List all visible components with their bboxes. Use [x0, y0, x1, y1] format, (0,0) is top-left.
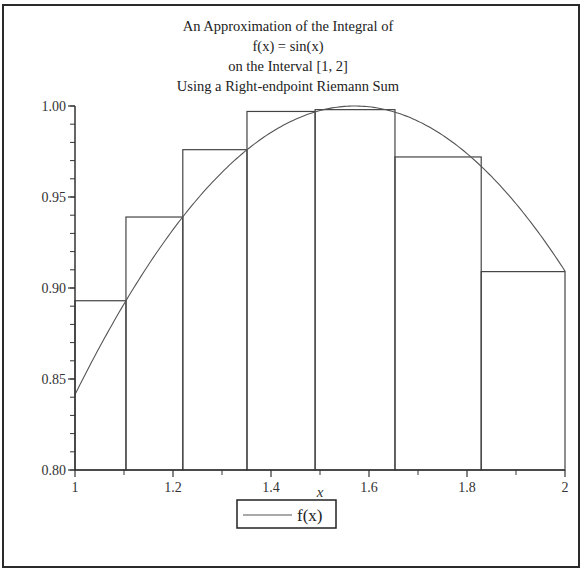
riemann-sum-chart: An Approximation of the Integral of f(x)… — [0, 0, 581, 574]
riemann-rectangle-5 — [315, 110, 395, 470]
y-tick-label: 1.00 — [42, 99, 67, 114]
riemann-rectangle-3 — [183, 150, 247, 470]
x-tick-label: 1.6 — [360, 480, 378, 495]
riemann-rectangle-2 — [126, 217, 183, 470]
legend: f(x) — [237, 500, 336, 528]
title-line-1: An Approximation of the Integral of — [183, 18, 394, 34]
riemann-rectangle-7 — [481, 272, 565, 470]
x-tick-label: 1.4 — [262, 480, 280, 495]
title-line-4: Using a Right-endpoint Riemann Sum — [177, 78, 400, 94]
riemann-rectangle-4 — [247, 111, 315, 470]
riemann-rectangles — [75, 110, 565, 470]
riemann-rectangle-6 — [395, 157, 481, 470]
title-line-2: f(x) = sin(x) — [253, 38, 324, 55]
y-axis-ticks: 0.800.850.900.951.00 — [42, 99, 76, 478]
y-tick-label: 0.95 — [42, 190, 67, 205]
y-tick-label: 0.90 — [42, 281, 67, 296]
y-tick-label: 0.80 — [42, 463, 67, 478]
y-tick-label: 0.85 — [42, 372, 67, 387]
legend-entry-fx: f(x) — [297, 506, 322, 525]
x-tick-label: 1 — [72, 480, 79, 495]
title-line-3: on the Interval [1, 2] — [228, 58, 348, 74]
x-tick-label: 2 — [562, 480, 569, 495]
function-curve — [75, 106, 565, 395]
riemann-rectangle-1 — [75, 301, 126, 470]
chart-title: An Approximation of the Integral of f(x)… — [177, 18, 400, 94]
x-tick-label: 1.2 — [164, 480, 182, 495]
x-tick-label: 1.8 — [458, 480, 476, 495]
axes — [75, 106, 565, 470]
x-axis-label: x — [316, 484, 324, 500]
